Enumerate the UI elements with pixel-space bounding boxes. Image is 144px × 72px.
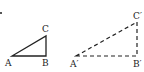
vertex-label-b-prime: B′ <box>133 59 142 69</box>
triangle-abc-shape <box>12 36 46 56</box>
vertex-label-a: A <box>4 58 12 68</box>
similar-triangles-diagram: A B C A′ B′ C′ <box>0 0 144 72</box>
vertex-label-c: C <box>42 24 49 34</box>
triangle-a-prime-b-prime-c-prime: A′ B′ C′ <box>69 11 142 69</box>
triangle-a-prime-b-prime-c-prime-shape <box>76 22 137 56</box>
stray-mark <box>0 12 2 14</box>
vertex-label-c-prime: C′ <box>133 11 142 21</box>
vertex-label-a-prime: A′ <box>69 59 79 69</box>
vertex-label-b: B <box>42 58 49 68</box>
triangle-abc: A B C <box>4 24 49 68</box>
